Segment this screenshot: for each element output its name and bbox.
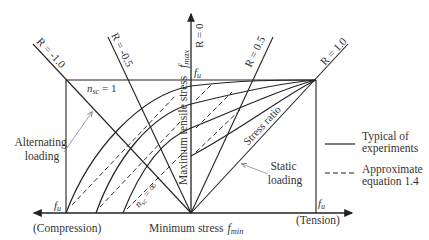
fu-right-label: fu [318, 197, 325, 211]
static-pointer [242, 164, 268, 174]
dashed-4 [196, 84, 212, 100]
fmax-symbol: fmax [176, 50, 191, 68]
stress-ratio-label: Stress ratio [241, 103, 284, 148]
min-stress-axis-label: Minimum stressfmin [149, 222, 243, 236]
nsc-1-label: nsc = 1 [87, 82, 116, 96]
r-1-line [191, 44, 348, 213]
compression-label: (Compression) [33, 222, 102, 235]
tension-label: (Tension) [296, 214, 340, 227]
r-1-label: R = 1.0 [318, 35, 349, 68]
r-minus-1-label: R = -1.0 [35, 35, 69, 70]
r-minus-1-line [33, 44, 191, 213]
max-stress-axis-label: Maximum tensile stress [177, 75, 189, 185]
static-loading-label: Static loading [268, 160, 303, 187]
curve-4 [191, 80, 316, 156]
alternating-loading-label: Alternating loading [14, 136, 69, 163]
legend-dashed-label: Approximate equation 1.4 [362, 163, 426, 188]
r-05-label: R = 0.5 [242, 34, 267, 69]
fu-top-label: fu [194, 66, 201, 80]
r-0-label: R = 0 [193, 23, 205, 48]
fu-left-label: fu [54, 199, 61, 213]
fatigue-diagram: R = -1.0 R = -0.5 R = 0 R = 0.5 R = 1.0 … [0, 0, 429, 240]
legend: Typical of experiments Approximate equat… [325, 130, 426, 188]
legend-solid-label: Typical of experiments [362, 130, 419, 155]
r-minus-05-label: R = -0.5 [109, 31, 136, 69]
